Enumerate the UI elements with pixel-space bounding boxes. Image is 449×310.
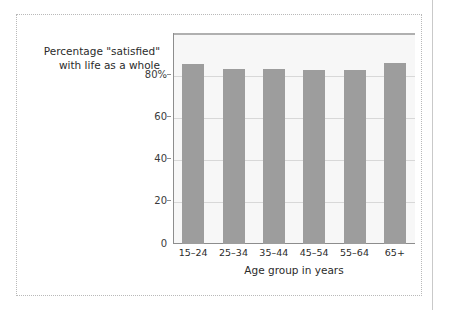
bars-layer bbox=[173, 33, 415, 244]
y-tick-label-20: 20 bbox=[154, 195, 167, 206]
x-tick-label-1: 25–34 bbox=[219, 247, 248, 258]
y-tick-mark-80 bbox=[167, 74, 171, 75]
x-tick-label-4: 55–64 bbox=[340, 247, 369, 258]
x-tick-label-0: 15–24 bbox=[179, 247, 208, 258]
y-tick-mark-60 bbox=[167, 116, 171, 117]
y-tick-mark-40 bbox=[167, 158, 171, 159]
y-tick-label-0: 0 bbox=[161, 238, 167, 249]
x-axis-title: Age group in years bbox=[173, 264, 415, 276]
bar-25-34 bbox=[223, 69, 245, 244]
y-axis-ticks: 80% 60 40 20 0 bbox=[133, 33, 167, 244]
bar-45-54 bbox=[303, 70, 325, 244]
y-tick-label-80: 80% bbox=[145, 69, 167, 80]
x-tick-label-2: 35–44 bbox=[259, 247, 288, 258]
bar-65-plus bbox=[384, 63, 406, 244]
bar-15-24 bbox=[182, 64, 204, 244]
bar-55-64 bbox=[344, 70, 366, 244]
y-tick-label-60: 60 bbox=[154, 111, 167, 122]
y-tick-mark-20 bbox=[167, 200, 171, 201]
y-tick-label-40: 40 bbox=[154, 153, 167, 164]
page-column-rule bbox=[432, 0, 433, 310]
x-axis-labels: 15–24 25–34 35–44 45–54 55–64 65+ bbox=[173, 247, 415, 263]
x-tick-label-3: 45–54 bbox=[300, 247, 329, 258]
x-tick-label-5: 65+ bbox=[385, 247, 405, 258]
bar-35-44 bbox=[263, 69, 285, 244]
